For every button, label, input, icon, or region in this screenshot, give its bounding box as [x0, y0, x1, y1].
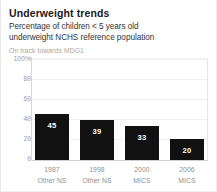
y-tick-dash-0: [28, 158, 31, 159]
x-label-year-2000: 2000: [134, 166, 150, 173]
y-tick-label-40: 40: [4, 115, 31, 122]
x-label-year-1987: 1987: [44, 166, 60, 173]
x-label-source-1998: Other NS: [77, 175, 117, 186]
underweight-bar-chart: 100% 80 60 40 20 0 45 39 33 20: [1, 52, 217, 192]
bar-1987[interactable]: 45: [35, 114, 69, 160]
x-label-year-1998: 1998: [89, 166, 105, 173]
underweight-trends-card: Underweight trends Percentage of childre…: [0, 0, 217, 192]
chart-subtitle: Percentage of children < 5 years old und…: [9, 22, 210, 43]
bar-value-2000: 33: [125, 133, 159, 142]
x-label-source-1987: Other NS: [32, 175, 72, 186]
bar-value-1998: 39: [80, 127, 114, 136]
x-axis-labels: 1987 Other NS 1998 Other NS 2000 MICS 20…: [32, 164, 208, 192]
bar-value-2006: 20: [170, 146, 204, 155]
y-axis-ticks: 100% 80 60 40 20 0: [1, 52, 31, 172]
bar-1998[interactable]: 39: [80, 120, 114, 160]
chart-subtitle-line-2: underweight NCHS reference population: [9, 33, 210, 44]
x-label-source-2000: MICS: [122, 175, 162, 186]
page-title: Underweight trends: [9, 7, 210, 20]
x-label-year-2006: 2006: [179, 166, 195, 173]
x-axis-baseline: [32, 160, 208, 161]
bar-2006[interactable]: 20: [170, 139, 204, 160]
y-tick-dash-60: [28, 98, 31, 99]
y-tick-label-60: 60: [4, 95, 31, 102]
x-label-group-3: 2000 MICS: [122, 164, 162, 186]
chart-subtitle-line-1: Percentage of children < 5 years old: [9, 22, 210, 33]
y-tick-label-100: 100%: [4, 55, 31, 62]
y-tick-dash-40: [28, 118, 31, 119]
bar-series: 45 39 33 20: [32, 58, 208, 160]
x-label-group-1: 1987 Other NS: [32, 164, 72, 186]
x-label-source-2006: MICS: [167, 175, 207, 186]
bar-value-1987: 45: [35, 121, 69, 130]
y-tick-dash-100: [28, 58, 31, 59]
card-header: Underweight trends Percentage of childre…: [9, 7, 210, 55]
y-tick-dash-80: [28, 78, 31, 79]
x-label-group-2: 1998 Other NS: [77, 164, 117, 186]
x-label-group-4: 2006 MICS: [167, 164, 207, 186]
y-tick-label-80: 80: [4, 75, 31, 82]
bar-2000[interactable]: 33: [125, 126, 159, 160]
y-tick-label-0: 0: [4, 155, 31, 162]
y-tick-label-20: 20: [4, 135, 31, 142]
y-tick-dash-20: [28, 138, 31, 139]
